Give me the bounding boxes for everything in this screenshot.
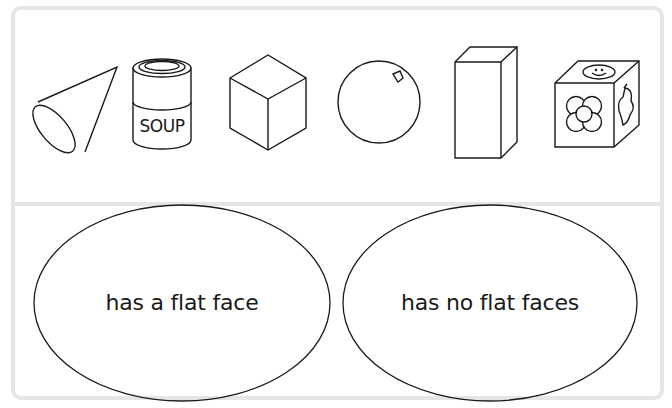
cube-icon[interactable] (229, 53, 309, 153)
cylinder-can-icon[interactable]: SOUP (130, 56, 194, 152)
picture-cube-icon[interactable] (553, 59, 643, 151)
cuboid-icon[interactable] (453, 44, 523, 162)
category-label-flat-face: has a flat face (105, 290, 258, 315)
cone-icon[interactable] (28, 62, 123, 162)
category-label-no-flat-faces: has no flat faces (401, 290, 579, 315)
sphere-icon[interactable] (336, 58, 426, 148)
can-label: SOUP (140, 116, 185, 136)
